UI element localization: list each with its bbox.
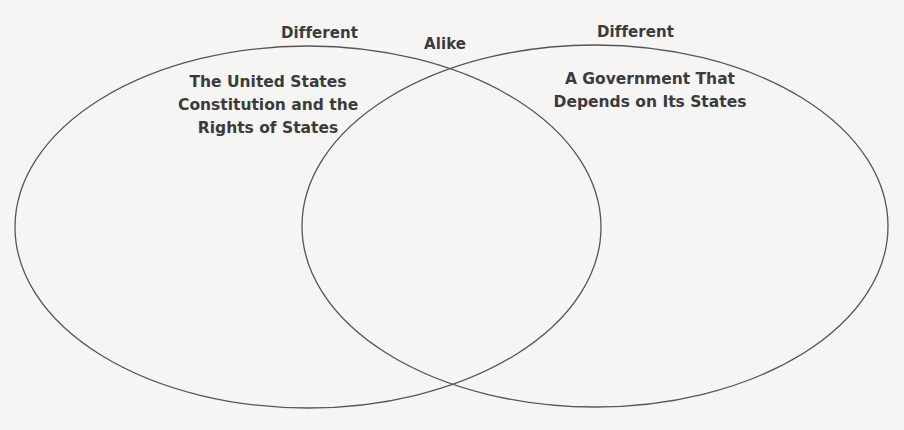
right-region-label: Different (597, 23, 674, 41)
right-circle-title: A Government That Depends on Its States (550, 68, 750, 114)
left-circle-title: The United States Constitution and the R… (178, 71, 358, 140)
right-circle-title-line-2: Depends on Its States (550, 91, 750, 114)
left-circle-title-line-1: The United States (178, 71, 358, 94)
venn-diagram-page: Different Alike Different The United Sta… (0, 0, 904, 430)
middle-region-label: Alike (424, 35, 466, 53)
right-circle-title-line-1: A Government That (550, 68, 750, 91)
venn-diagram (0, 0, 904, 430)
left-circle-title-line-2: Constitution and the (178, 94, 358, 117)
left-region-label: Different (281, 24, 358, 42)
left-circle-title-line-3: Rights of States (178, 117, 358, 140)
